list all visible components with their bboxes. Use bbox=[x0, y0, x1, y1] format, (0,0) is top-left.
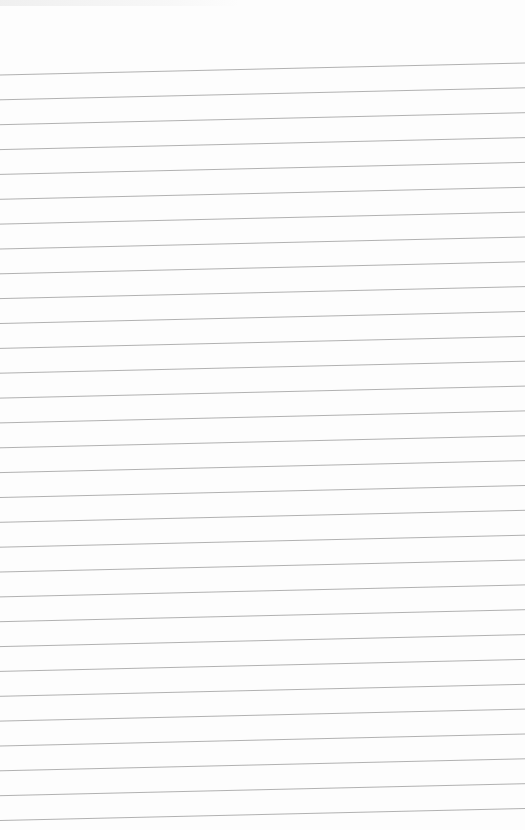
ruled-line bbox=[0, 659, 525, 671]
ruled-line bbox=[0, 411, 525, 423]
ruled-line bbox=[0, 138, 525, 150]
ruled-line bbox=[0, 585, 525, 597]
ruled-line bbox=[0, 262, 525, 274]
ruled-line bbox=[0, 187, 525, 199]
ruled-line bbox=[0, 809, 525, 821]
ruled-line bbox=[0, 386, 525, 398]
ruled-line bbox=[0, 88, 525, 100]
ruled-line bbox=[0, 287, 525, 299]
ruled-line bbox=[0, 784, 525, 796]
ruled-lines bbox=[0, 0, 525, 830]
ruled-line bbox=[0, 510, 525, 522]
ruled-line bbox=[0, 237, 525, 249]
ruled-line bbox=[0, 162, 525, 174]
lined-paper-page bbox=[0, 0, 525, 830]
ruled-line bbox=[0, 709, 525, 721]
ruled-line bbox=[0, 610, 525, 622]
ruled-line bbox=[0, 212, 525, 224]
ruled-line bbox=[0, 312, 525, 324]
ruled-line bbox=[0, 436, 525, 448]
ruled-line bbox=[0, 461, 525, 473]
ruled-line bbox=[0, 734, 525, 746]
ruled-line bbox=[0, 684, 525, 696]
ruled-line bbox=[0, 361, 525, 373]
ruled-line bbox=[0, 759, 525, 771]
ruled-line bbox=[0, 113, 525, 125]
ruled-line bbox=[0, 63, 525, 75]
ruled-line bbox=[0, 486, 525, 498]
ruled-line bbox=[0, 535, 525, 547]
ruled-line bbox=[0, 560, 525, 572]
ruled-line bbox=[0, 336, 525, 348]
ruled-line bbox=[0, 635, 525, 647]
